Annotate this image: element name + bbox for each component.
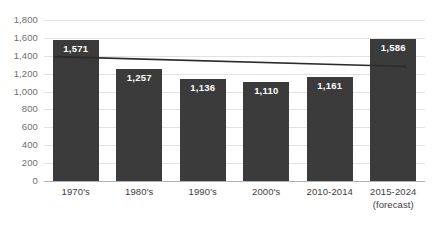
x-category-line: 2000's: [235, 185, 299, 198]
bar-value-label: 1,586: [370, 43, 416, 53]
gridline: [44, 109, 425, 110]
bar-group: 1,161: [307, 20, 353, 181]
bar: 1,586: [370, 39, 416, 181]
gridline: [44, 127, 425, 128]
y-tick-label: 1,600: [0, 33, 38, 43]
bar-group: 1,257: [116, 20, 162, 181]
x-category-line: 2010-2014: [298, 185, 362, 198]
y-tick-label: 800: [0, 105, 38, 115]
bar: 1,110: [243, 82, 289, 181]
bar-group: 1,586: [370, 20, 416, 181]
bar: 1,161: [307, 77, 353, 181]
x-category-label: 2015-2024(forecast): [362, 185, 426, 211]
gridline: [44, 38, 425, 39]
x-category-label: 2000's: [235, 185, 299, 198]
x-category-label: 1990's: [171, 185, 235, 198]
y-tick-label: 200: [0, 158, 38, 168]
bar-chart: 02004006008001,0001,2001,4001,6001,800 1…: [0, 0, 437, 225]
y-axis-tick-labels: 02004006008001,0001,2001,4001,6001,800: [0, 20, 38, 181]
y-tick-label: 0: [0, 176, 38, 186]
bar-value-label: 1,161: [307, 81, 353, 91]
bar-group: 1,571: [53, 20, 99, 181]
y-tick-label: 1,200: [0, 69, 38, 79]
x-category-line: 1990's: [171, 185, 235, 198]
x-category-label: 1980's: [108, 185, 172, 198]
bar: 1,136: [180, 79, 226, 181]
y-tick-label: 1,800: [0, 15, 38, 25]
bar-value-label: 1,110: [243, 86, 289, 96]
x-category-line: 1980's: [108, 185, 172, 198]
gridline: [44, 145, 425, 146]
bar-group: 1,136: [180, 20, 226, 181]
gridline: [44, 163, 425, 164]
x-axis-category-labels: 1970's1980's1990's2000's2010-20142015-20…: [44, 185, 425, 223]
gridline: [44, 20, 425, 21]
gridline: [44, 56, 425, 57]
y-tick-label: 1,000: [0, 87, 38, 97]
x-category-line: (forecast): [362, 198, 426, 211]
plot-area: 1,5711,2571,1361,1101,1611,586: [44, 20, 425, 181]
bar-value-label: 1,571: [53, 44, 99, 54]
gridline: [44, 92, 425, 93]
x-category-label: 2010-2014: [298, 185, 362, 198]
x-category-label: 1970's: [44, 185, 108, 198]
gridline: [44, 74, 425, 75]
x-category-line: 2015-2024: [362, 185, 426, 198]
bar: 1,571: [53, 40, 99, 181]
x-category-line: 1970's: [44, 185, 108, 198]
bar-value-label: 1,257: [116, 73, 162, 83]
y-tick-label: 400: [0, 140, 38, 150]
bar: 1,257: [116, 69, 162, 181]
y-tick-label: 1,400: [0, 51, 38, 61]
bar-group: 1,110: [243, 20, 289, 181]
axis-baseline: [44, 181, 425, 182]
bar-value-label: 1,136: [180, 83, 226, 93]
y-tick-label: 600: [0, 123, 38, 133]
